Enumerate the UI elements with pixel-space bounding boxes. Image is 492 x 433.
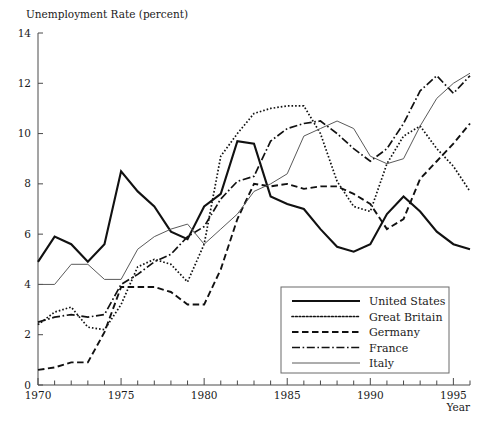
x-tick-label: 1990 <box>357 389 384 401</box>
y-tick-label: 2 <box>24 328 31 340</box>
y-tick-label: 8 <box>24 177 31 189</box>
chart-canvas: Unemployment Rate (percent) 02468101214 … <box>0 0 492 433</box>
legend-label-france: France <box>369 342 408 355</box>
unemployment-rate-chart: Unemployment Rate (percent) 02468101214 … <box>0 0 492 433</box>
y-tick-label: 6 <box>24 228 31 240</box>
legend-label-great-britain: Great Britain <box>369 311 442 324</box>
legend-label-italy: Italy <box>369 357 395 370</box>
chart-title: Unemployment Rate (percent) <box>26 8 188 20</box>
x-tick-label: 1995 <box>440 389 467 401</box>
x-tick-label: 1975 <box>108 389 135 401</box>
y-tick-group: 02468101214 <box>18 27 43 391</box>
y-tick-label: 14 <box>18 27 32 39</box>
x-axis-title: Year <box>445 401 470 413</box>
legend-label-united-states: United States <box>369 295 446 308</box>
x-tick-label: 1980 <box>191 389 218 401</box>
y-tick-label: 10 <box>18 127 31 139</box>
legend-label-germany: Germany <box>369 326 421 339</box>
series-line-italy <box>38 73 470 284</box>
x-tick-label: 1970 <box>25 389 52 401</box>
x-tick-label: 1985 <box>274 389 301 401</box>
y-tick-label: 4 <box>24 278 31 290</box>
series-line-united-states <box>38 141 470 262</box>
x-tick-group: 197019751980198519901995 <box>25 378 470 401</box>
y-tick-label: 12 <box>18 77 31 89</box>
chart-legend: United StatesGreat BritainGermanyFranceI… <box>281 287 449 373</box>
